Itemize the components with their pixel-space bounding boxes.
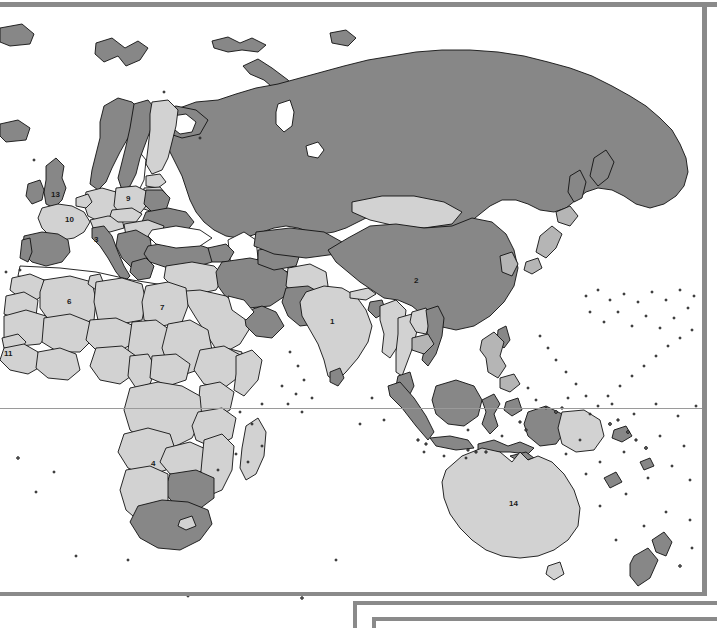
franz-josef-land <box>212 37 266 52</box>
new-zealand-north-land <box>652 532 672 556</box>
philippines-south-land <box>500 374 520 392</box>
figure-frame-top <box>0 2 717 7</box>
map-label-7: 7 <box>160 304 164 312</box>
map-label-13: 13 <box>51 191 60 199</box>
new-zealand-south-land <box>630 548 658 586</box>
egypt-land <box>142 282 188 326</box>
fiji-land <box>640 458 654 470</box>
solomon-islands-land <box>612 426 632 442</box>
united-kingdom-land <box>44 158 66 208</box>
iceland-land <box>0 120 30 142</box>
map-label-6: 6 <box>67 298 71 306</box>
map-figure: 1 2 3 4 6 7 9 10 11 13 14 <box>0 0 717 628</box>
mali-land <box>42 314 92 352</box>
figure-frame-right <box>702 2 707 595</box>
sulawesi-land <box>482 394 500 434</box>
papua-new-guinea-land <box>558 410 604 452</box>
libya-land <box>94 278 146 324</box>
finland-land <box>146 100 178 174</box>
japan-land <box>536 226 562 258</box>
world-map-svg <box>0 0 717 600</box>
ireland-land <box>26 180 44 204</box>
madagascar-land <box>240 418 266 480</box>
south-africa-land <box>130 500 212 550</box>
svalbard-land <box>95 38 148 66</box>
japan-south-land <box>524 258 542 274</box>
india-land <box>300 286 372 382</box>
legend-panel-inner-border <box>372 617 717 628</box>
equator-line <box>0 408 703 409</box>
estonia-land <box>146 174 166 188</box>
map-label-3: 3 <box>94 236 98 244</box>
tasmania-land <box>546 562 564 580</box>
map-label-11: 11 <box>4 350 12 358</box>
java-land <box>430 436 474 450</box>
map-label-14: 14 <box>509 500 518 508</box>
map-label-1: 1 <box>330 318 334 326</box>
new-caledonia-land <box>604 472 622 488</box>
ivorycoast-ghana-land <box>36 348 80 380</box>
map-label-9: 9 <box>126 195 130 203</box>
greenland-land <box>0 24 34 46</box>
somalia-land <box>234 350 262 396</box>
black-sea-water <box>148 226 212 248</box>
maluku-land <box>504 398 522 416</box>
figure-frame-bottom <box>0 592 707 596</box>
map-label-2: 2 <box>414 277 418 285</box>
map-label-10: 10 <box>65 216 74 224</box>
borneo-land <box>432 380 482 426</box>
severnaya-zemlya-land <box>330 30 356 46</box>
map-label-4: 4 <box>151 460 155 468</box>
